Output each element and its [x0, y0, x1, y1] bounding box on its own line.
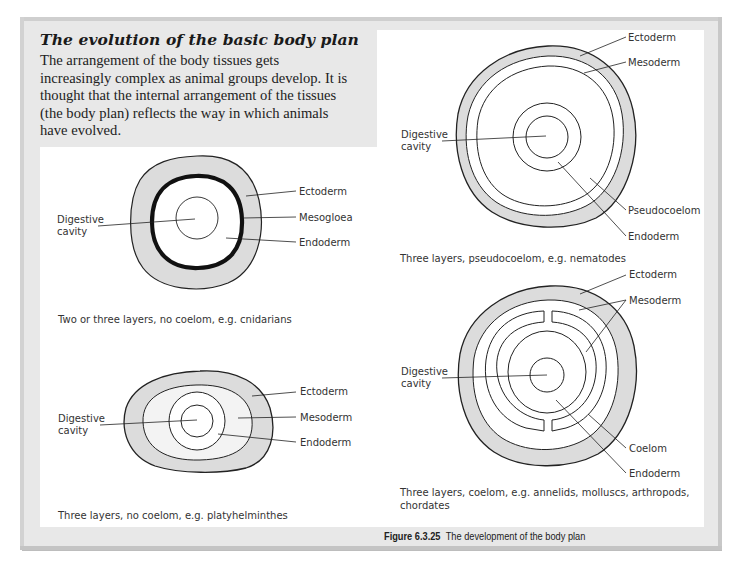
- caption-coelomates-line2: chordates: [400, 500, 450, 511]
- label-endoderm: Endoderm: [628, 231, 679, 242]
- caption-nematodes: Three layers, pseudocoelom, e.g. nematod…: [399, 253, 626, 264]
- label-endoderm: Endoderm: [629, 468, 680, 479]
- figure-title: The development of the body plan: [446, 530, 586, 542]
- label-coelom: Coelom: [629, 443, 667, 454]
- label-ectoderm: Ectoderm: [299, 186, 347, 197]
- label-digestive: Digestive: [401, 366, 448, 377]
- label-mesoderm: Mesoderm: [300, 412, 352, 423]
- label-digestive: Digestive: [57, 214, 104, 225]
- label-pseudocoelom: Pseudocoelom: [628, 205, 700, 216]
- label-cavity: cavity: [58, 425, 88, 436]
- label-mesogloea: Mesogloea: [299, 212, 353, 223]
- label-ectoderm: Ectoderm: [629, 269, 677, 280]
- diagram-coelomates: Digestive cavity Ectoderm Mesoderm Coelo…: [399, 269, 689, 511]
- caption-coelomates-line1: Three layers, coelom, e.g. annelids, mol…: [399, 487, 689, 498]
- label-endoderm: Endoderm: [299, 237, 350, 248]
- label-ectoderm: Ectoderm: [628, 32, 676, 43]
- label-ectoderm: Ectoderm: [300, 386, 348, 397]
- digestive-cavity-circle: [181, 405, 213, 437]
- label-digestive: Digestive: [58, 413, 105, 424]
- digestive-cavity-circle: [176, 197, 218, 239]
- body-plan-diagrams: Digestive cavity Ectoderm Mesogloea Endo…: [0, 0, 742, 569]
- diagram-nematodes: Digestive cavity Ectoderm Mesoderm Pseud…: [399, 32, 700, 264]
- caption-platyhelminthes: Three layers, no coelom, e.g. platyhelmi…: [57, 510, 288, 521]
- label-mesoderm: Mesoderm: [628, 57, 680, 68]
- label-cavity: cavity: [401, 141, 431, 152]
- label-cavity: cavity: [57, 226, 87, 237]
- diagram-cnidarians: Digestive cavity Ectoderm Mesogloea Endo…: [57, 156, 353, 325]
- label-mesoderm: Mesoderm: [629, 295, 681, 306]
- figure-caption: Figure 6.3.25 The development of the bod…: [384, 530, 585, 542]
- figure-number: Figure 6.3.25: [384, 530, 440, 542]
- label-digestive: Digestive: [401, 129, 448, 140]
- diagram-platyhelminthes: Digestive cavity Ectoderm Mesoderm Endod…: [57, 371, 352, 521]
- caption-cnidarians: Two or three layers, no coelom, e.g. cni…: [57, 314, 292, 325]
- label-cavity: cavity: [401, 378, 431, 389]
- label-endoderm: Endoderm: [300, 437, 351, 448]
